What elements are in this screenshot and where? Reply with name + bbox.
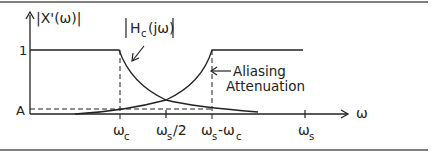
x-tick-ws-minus-wc: ω s -ω c: [201, 122, 242, 142]
svg-text:-ω: -ω: [218, 122, 235, 138]
svg-text:c: c: [141, 28, 147, 39]
y-axis: [26, 12, 34, 114]
y-axis-label: |X'(ω)|: [36, 10, 82, 27]
svg-text:(jω): (jω): [148, 20, 175, 36]
svg-text:c: c: [124, 131, 130, 142]
x-tick-ws: ω s: [298, 122, 314, 142]
x-tick-ws-half: ω s /2: [156, 122, 187, 142]
aliasing-diagram: |X'(ω)| ω 1 A H c (jω) Aliasing Attenuat…: [0, 0, 437, 155]
svg-text:ω: ω: [298, 122, 310, 138]
filter-pointer-arrow-icon: [132, 46, 144, 61]
filter-response-curve: [30, 50, 258, 112]
filter-label: H c (jω): [126, 18, 175, 39]
x-axis-label: ω: [356, 105, 368, 121]
svg-text:s: s: [212, 131, 217, 142]
svg-text:ω: ω: [113, 122, 125, 138]
svg-text:/2: /2: [173, 122, 187, 138]
aliasing-label: Aliasing: [233, 63, 286, 79]
svg-text:ω: ω: [156, 122, 168, 138]
svg-text:c: c: [236, 131, 242, 142]
x-tick-wc: ω c: [113, 122, 130, 142]
y-tick-a: A: [16, 103, 25, 118]
attenuation-label: Attenuation: [226, 78, 305, 94]
svg-text:H: H: [130, 20, 141, 36]
svg-text:s: s: [309, 131, 314, 142]
y-tick-1: 1: [19, 43, 27, 58]
aliasing-pointer-arrow-icon: [211, 67, 231, 75]
svg-text:s: s: [167, 131, 172, 142]
svg-text:ω: ω: [201, 122, 213, 138]
